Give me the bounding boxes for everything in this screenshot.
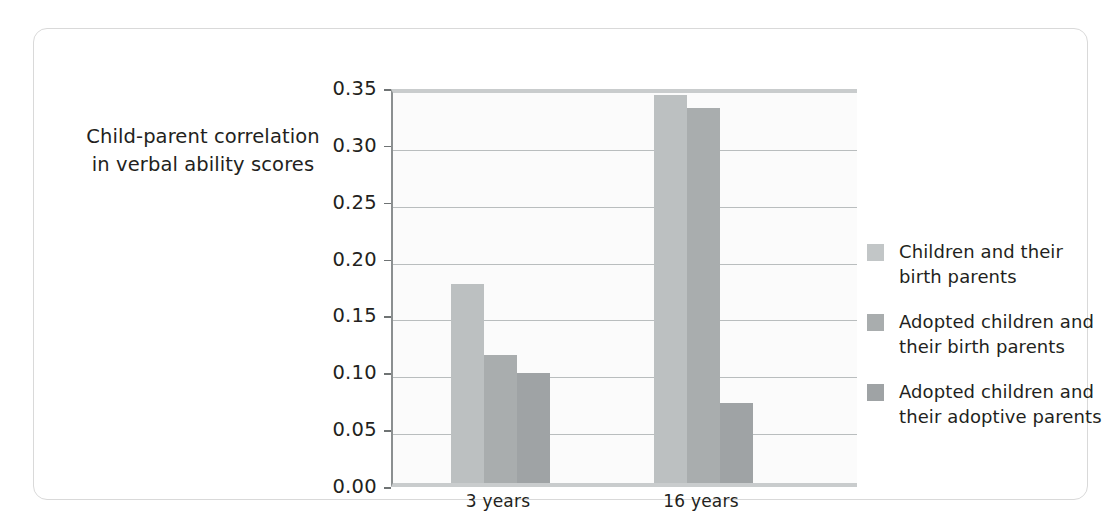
y-axis-tick-label: 0.35 — [332, 79, 377, 99]
legend-item: Adopted children and their birth parents — [867, 309, 1117, 359]
legend-color-swatch — [867, 244, 884, 261]
legend-color-swatch — [867, 384, 884, 401]
y-axis-tick-label: 0.05 — [332, 420, 377, 440]
y-axis-tick-mark — [384, 260, 391, 262]
plot-area-wrapper: 0.000.050.100.150.200.250.300.35 3 years… — [391, 89, 857, 487]
y-axis-tick-mark — [384, 487, 391, 489]
gridline — [393, 150, 857, 151]
bar — [654, 95, 687, 483]
y-axis-tick-label: 0.00 — [332, 477, 377, 497]
legend-label: Adopted children and their birth parents — [899, 309, 1094, 359]
gridline — [393, 207, 857, 208]
legend-item: Adopted children and their adoptive pare… — [867, 379, 1117, 429]
y-axis-tick-label: 0.25 — [332, 193, 377, 213]
y-axis-title: Child-parent correlation in verbal abili… — [72, 123, 334, 179]
y-axis-tick-mark — [384, 316, 391, 318]
bar — [484, 355, 517, 483]
bar — [687, 108, 720, 483]
y-axis-tick-label: 0.15 — [332, 307, 377, 327]
plot-area — [391, 89, 857, 487]
legend-item: Children and their birth parents — [867, 239, 1117, 289]
y-axis-tick-mark — [384, 146, 391, 148]
gridline — [393, 264, 857, 265]
legend: Children and their birth parentsAdopted … — [867, 239, 1117, 429]
y-axis-tick-label: 0.20 — [332, 250, 377, 270]
figure-card: Child-parent correlation in verbal abili… — [33, 28, 1088, 500]
bar — [720, 403, 753, 483]
bar — [517, 373, 550, 483]
bar — [451, 284, 484, 483]
y-axis-tick-mark — [384, 89, 391, 91]
legend-color-swatch — [867, 314, 884, 331]
y-axis-tick-label: 0.30 — [332, 136, 377, 156]
y-axis-tick-label: 0.10 — [332, 364, 377, 384]
x-axis-group-label: 16 years — [663, 493, 738, 510]
legend-label: Adopted children and their adoptive pare… — [899, 379, 1102, 429]
y-axis-tick-mark — [384, 430, 391, 432]
x-axis-group-label: 3 years — [466, 493, 530, 510]
y-axis-tick-mark — [384, 203, 391, 205]
y-axis-tick-mark — [384, 373, 391, 375]
legend-label: Children and their birth parents — [899, 239, 1063, 289]
